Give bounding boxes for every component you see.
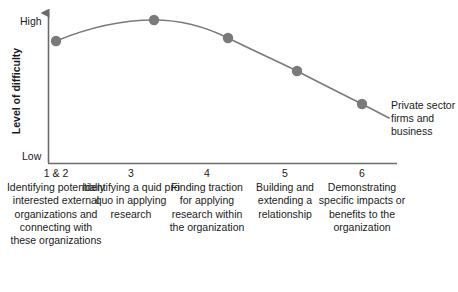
category-column: 3 Identifying a quid pro quo in applying…	[82, 167, 180, 221]
category-number: 5	[243, 167, 327, 180]
category-number: 3	[82, 167, 180, 180]
data-point-marker	[357, 99, 367, 109]
category-description: Identifying a quid pro quo in applying r…	[82, 181, 180, 221]
y-axis-low-label: Low	[22, 150, 41, 162]
y-axis-high-label: High	[20, 15, 42, 27]
category-column: 6 Demonstrating specific impacts or bene…	[318, 167, 406, 234]
data-point-marker	[292, 66, 302, 76]
category-number: 6	[318, 167, 406, 180]
category-description: Finding traction for applying research w…	[168, 181, 246, 234]
difficulty-trend-line	[56, 20, 389, 118]
y-axis-title: Level of difficulty	[10, 33, 22, 149]
category-description: Demonstrating specific impacts or benefi…	[318, 181, 406, 234]
category-column: 4 Finding traction for applying research…	[168, 167, 246, 234]
category-column: 5 Building and extending a relationship	[243, 167, 327, 221]
data-point-marker	[149, 15, 159, 25]
category-number: 4	[168, 167, 246, 180]
data-point-marker	[223, 33, 233, 43]
category-description: Building and extending a relationship	[243, 181, 327, 221]
difficulty-curve-figure: High Low Level of difficulty Private sec…	[0, 0, 458, 292]
data-point-marker	[51, 36, 61, 46]
category-label-row: 1 & 2 Identifying potentially interested…	[0, 167, 458, 287]
private-sector-annotation: Private sector firms and business	[391, 99, 457, 138]
